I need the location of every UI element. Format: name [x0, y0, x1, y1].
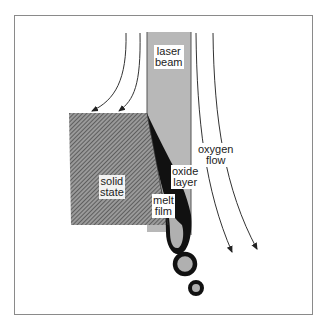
label-solid-state: solid state — [99, 175, 125, 199]
label-oxide-layer-line2: layer — [172, 177, 198, 188]
label-melt-film: melt film — [152, 194, 175, 218]
melt-droplets — [175, 254, 202, 294]
label-oxide-layer: oxide layer — [171, 165, 199, 189]
label-melt-film-line2: film — [153, 206, 174, 217]
label-oxygen-flow: oxygen flow — [197, 143, 234, 167]
label-laser-beam-line2: beam — [155, 57, 183, 68]
label-laser-beam: laser beam — [154, 45, 184, 69]
oxygen-flow-arrows-left — [92, 33, 140, 111]
label-solid-state-line2: state — [100, 187, 124, 198]
label-oxygen-flow-line2: flow — [198, 155, 233, 166]
